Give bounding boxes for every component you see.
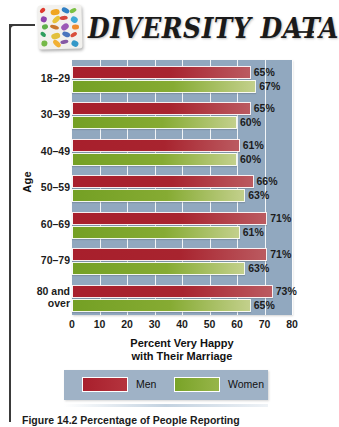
bar-men: [72, 285, 273, 298]
x-tick-label: 30: [149, 318, 161, 330]
bar-men: [72, 175, 254, 188]
bar-groups: 65%67%65%60%61%60%66%63%71%61%71%63%73%6…: [72, 60, 292, 315]
mosaic-tile: [69, 7, 77, 14]
chart: Age 18–2930–3940–4950–5960–6970–7980 and…: [0, 56, 318, 356]
mosaic-logo-icon: [37, 4, 82, 49]
bar-group: 65%67%: [72, 66, 292, 96]
bar-group: 71%61%: [72, 212, 292, 242]
x-tick-label: 70: [259, 318, 271, 330]
bar-women: [72, 299, 251, 312]
bar-men: [72, 102, 251, 115]
figure-caption: Figure 14.2 Percentage of People Reporti…: [22, 414, 312, 427]
legend: MenWomen: [64, 370, 268, 400]
bar-group: 71%63%: [72, 248, 292, 278]
bar-value-women: 63%: [248, 262, 269, 275]
bar-value-men: 65%: [254, 66, 275, 79]
bar-women: [72, 153, 237, 166]
bar-women: [72, 226, 240, 239]
bar-value-men: 71%: [270, 212, 291, 225]
mosaic-tile: [50, 24, 60, 30]
bar-women: [72, 80, 256, 93]
x-tick-label: 60: [231, 318, 243, 330]
legend-label: Women: [228, 377, 264, 392]
bar-men: [72, 139, 240, 152]
legend-swatch: [82, 377, 128, 392]
bar-value-men: 66%: [257, 175, 278, 188]
bar-group: 61%60%: [72, 139, 292, 169]
mosaic-tile: [70, 39, 79, 47]
bar-value-women: 60%: [240, 116, 261, 129]
mosaic-tile: [60, 39, 69, 44]
bar-value-women: 67%: [259, 80, 280, 93]
y-tick-label: 40–49: [2, 145, 70, 157]
bar-men: [72, 212, 267, 225]
bar-value-women: 61%: [243, 226, 264, 239]
bar-value-men: 61%: [243, 139, 264, 152]
bar-women: [72, 116, 237, 129]
x-tick-label: 80: [286, 318, 298, 330]
page-title: DIVERSITY DATA: [88, 7, 284, 52]
x-axis-title-line2: with Their Marriage: [72, 350, 292, 363]
y-axis-tick-labels: 18–2930–3940–4950–5960–6970–7980 andover: [0, 60, 70, 315]
x-tick-label: 0: [69, 318, 75, 330]
mosaic-tile: [41, 40, 48, 47]
grid-line: [292, 60, 293, 315]
bar-value-women: 65%: [254, 299, 275, 312]
bar-group: 73%65%: [72, 285, 292, 315]
x-tick-label: 10: [94, 318, 106, 330]
y-tick-label: 50–59: [2, 181, 70, 193]
x-axis-title: Percent Very Happy with Their Marriage: [72, 337, 292, 363]
plot-area: 65%67%65%60%61%60%66%63%71%61%71%63%73%6…: [72, 60, 292, 315]
y-tick-label-line: over: [2, 297, 70, 309]
bar-value-men: 65%: [254, 102, 275, 115]
x-tick-label: 20: [121, 318, 133, 330]
bar-value-men: 71%: [270, 248, 291, 261]
y-tick-label-line: 80 and: [2, 285, 70, 297]
x-tick-label: 50: [204, 318, 216, 330]
x-tick-label: 40: [176, 318, 188, 330]
mosaic-tile: [39, 7, 46, 14]
bar-value-men: 73%: [276, 285, 297, 298]
mosaic-tile: [60, 22, 70, 32]
bar-group: 65%60%: [72, 102, 292, 132]
bar-men: [72, 248, 267, 261]
y-tick-label: 70–79: [2, 254, 70, 266]
mosaic-tile: [41, 24, 48, 31]
y-tick-label: 30–39: [2, 108, 70, 120]
x-axis-tick-labels: 01020304050607080: [72, 318, 292, 334]
mosaic-tile: [70, 15, 79, 24]
x-axis-title-line1: Percent Very Happy: [72, 337, 292, 350]
bar-value-women: 60%: [240, 153, 261, 166]
header: DIVERSITY DATA: [0, 0, 318, 56]
mosaic-tile: [40, 16, 47, 23]
legend-label: Men: [136, 377, 156, 392]
mosaic-tile: [70, 31, 78, 38]
bar-men: [72, 66, 251, 79]
mosaic-tile: [40, 31, 47, 38]
bar-group: 66%63%: [72, 175, 292, 205]
bar-women: [72, 262, 245, 275]
bar-value-women: 63%: [248, 189, 269, 202]
mosaic-tile: [60, 16, 68, 21]
legend-swatch: [174, 377, 220, 392]
y-tick-label: 18–29: [2, 72, 70, 84]
mosaic-tile: [72, 25, 79, 30]
y-tick-label: 80 andover: [2, 285, 70, 309]
caption-divider: [64, 404, 268, 407]
y-tick-label: 60–69: [2, 218, 70, 230]
bar-women: [72, 189, 245, 202]
